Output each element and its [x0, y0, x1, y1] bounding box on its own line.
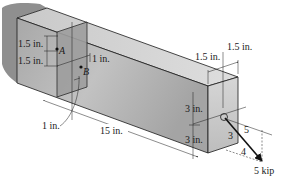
label-a-offset-bottom: 1.5 in. [18, 55, 43, 66]
label-end-height-top: 3 in. [185, 103, 203, 114]
label-point-a: A [58, 45, 66, 56]
label-slope-vertical: 3 [228, 130, 233, 141]
label-b-depth: 1 in. [92, 53, 110, 64]
label-end-width-right: 1.5 in. [227, 41, 252, 52]
label-end-width-left: 1.5 in. [195, 51, 220, 62]
label-end-height-bottom: 3 in. [185, 134, 203, 145]
label-point-b: B [83, 66, 89, 77]
label-slope-horizontal: 4 [241, 146, 246, 157]
label-force: 5 kip [254, 165, 274, 176]
label-a-offset-top: 1.5 in. [18, 38, 43, 49]
label-length: 15 in. [100, 125, 123, 136]
label-slope-hypotenuse: 5 [244, 124, 249, 135]
label-b-offset: 1 in. [42, 120, 60, 131]
beam-diagram: 1.5 in. 1.5 in. A 1 in. B 1 in. 15 in. 1… [0, 0, 284, 185]
